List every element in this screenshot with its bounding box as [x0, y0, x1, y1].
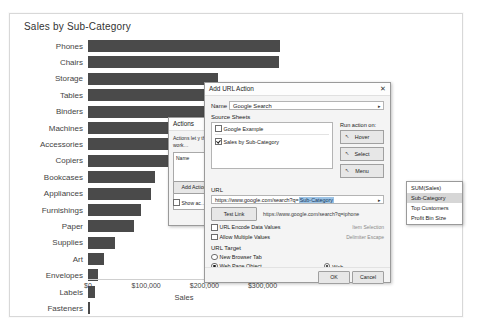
name-input[interactable]: Google Search ▸ — [229, 101, 384, 110]
test-link-button[interactable]: Test Link — [211, 207, 257, 221]
url-input-prefix: https://www.google.com/search?q= — [215, 197, 299, 203]
allow-multiple-hint: Delimiter Escape — [346, 234, 384, 240]
screenshot-root: Sales by Sub-Category PhonesChairsStorag… — [0, 0, 484, 334]
source-sheets-row: Google ExampleSales by Sub-Category Run … — [211, 122, 384, 181]
chart-row-label: Machines — [10, 124, 88, 133]
source-sheet-item[interactable]: Sales by Sub-Category — [215, 138, 329, 145]
dropdown-item[interactable]: Sub-Category — [407, 193, 462, 203]
dropdown-item[interactable]: Profit Bin Size — [407, 213, 462, 223]
chart-row-label: Copiers — [10, 156, 88, 165]
chart-bar[interactable] — [88, 40, 280, 52]
cursor-icon: ↖ — [345, 133, 349, 139]
checkbox-icon[interactable] — [211, 224, 218, 231]
url-encode-option[interactable]: URL Encode Data Values Item Selection — [211, 224, 384, 231]
chart-bar[interactable] — [88, 56, 279, 68]
show-actions-checkbox[interactable]: Show ac… — [173, 199, 206, 206]
add-url-action-dialog[interactable]: Add URL Action ✕ Name Google Search ▸ So… — [204, 82, 391, 283]
close-icon[interactable]: ✕ — [380, 83, 386, 95]
chart-row-label: Chairs — [10, 58, 88, 67]
radio-icon[interactable] — [211, 254, 218, 261]
chart-bar[interactable] — [88, 302, 90, 314]
url-dialog-body: Name Google Search ▸ Source Sheets Googl… — [205, 101, 390, 286]
chevron-right-icon[interactable]: ▸ — [378, 102, 381, 111]
source-sheet-item[interactable]: Google Example — [215, 125, 329, 135]
cursor-icon: ↖ — [345, 167, 349, 173]
chart-bar[interactable] — [88, 171, 155, 183]
chart-bar[interactable] — [88, 237, 115, 249]
dropdown-item[interactable]: Top Customers — [407, 203, 462, 213]
chart-bar-track — [88, 38, 310, 54]
chart-row-label: Supplies — [10, 238, 88, 247]
checkbox-icon[interactable] — [173, 199, 180, 206]
chart-bar[interactable] — [88, 89, 208, 101]
test-link-preview: https://www.google.com/search?q=iphone — [263, 211, 359, 217]
url-input[interactable]: https://www.google.com/search?q=Sub-Cate… — [211, 195, 384, 204]
chart-row-label: Furnishings — [10, 206, 88, 215]
chart-row-label: Art — [10, 255, 88, 264]
chart-row-label: Accessories — [10, 140, 88, 149]
run-action-button-label: Menu — [355, 168, 369, 174]
run-action-select-button[interactable]: ↖Select — [340, 147, 384, 161]
chart-bar[interactable] — [88, 73, 218, 85]
checkbox-icon[interactable] — [211, 234, 218, 241]
source-sheet-label: Google Example — [224, 126, 264, 132]
chart-row-label: Tables — [10, 91, 88, 100]
run-action-hover-button[interactable]: ↖Hover — [340, 130, 384, 144]
checkbox-icon[interactable] — [215, 138, 222, 145]
run-action-on-label: Run action on: — [340, 122, 384, 128]
chart-bar[interactable] — [88, 106, 206, 118]
chart-bar[interactable] — [88, 188, 151, 200]
source-sheet-label: Sales by Sub-Category — [224, 139, 279, 145]
field-dropdown-menu[interactable]: SUM(Sales)Sub-CategoryTop CustomersProfi… — [406, 181, 463, 225]
url-encode-label: URL Encode Data Values — [220, 224, 281, 230]
url-target-label: URL Target — [211, 245, 384, 251]
chart-row-label: Paper — [10, 222, 88, 231]
name-row: Name Google Search ▸ — [211, 101, 384, 110]
test-link-row: Test Link https://www.google.com/search?… — [211, 207, 384, 221]
url-target-option-label: New Browser Tab — [220, 254, 262, 260]
chart-row-label: Fasteners — [10, 304, 88, 313]
run-action-on-buttons: ↖Hover↖Select↖Menu — [340, 130, 384, 178]
chart-row-label: Phones — [10, 42, 88, 51]
x-axis-title: Sales — [175, 293, 194, 302]
chart-bar[interactable] — [88, 155, 175, 167]
dropdown-item[interactable]: SUM(Sales) — [407, 183, 462, 193]
chart-row[interactable]: Phones — [10, 38, 310, 54]
chart-bar[interactable] — [88, 253, 104, 265]
run-action-menu-button[interactable]: ↖Menu — [340, 164, 384, 178]
url-section-label: URL — [211, 187, 384, 193]
run-action-on-group: Run action on: ↖Hover↖Select↖Menu — [340, 122, 384, 181]
name-label: Name — [211, 103, 229, 109]
checkbox-icon[interactable] — [215, 125, 222, 132]
cancel-button[interactable]: Cancel — [352, 271, 384, 284]
url-dialog-titlebar: Add URL Action ✕ — [205, 83, 390, 96]
source-sheets-listbox[interactable]: Google ExampleSales by Sub-Category — [211, 122, 333, 169]
url-dialog-title: Add URL Action — [209, 85, 254, 92]
run-action-button-label: Select — [355, 151, 370, 157]
source-sheets-label: Source Sheets — [211, 114, 384, 120]
chart-row-label: Bookcases — [10, 173, 88, 182]
run-action-button-label: Hover — [355, 134, 369, 140]
chart-row[interactable]: Fasteners — [10, 300, 310, 316]
x-axis-tick-label: $100,000 — [132, 282, 161, 289]
chart-row[interactable]: Chairs — [10, 54, 310, 70]
url-target-option[interactable]: New Browser Tab — [211, 254, 384, 261]
chart-row-label: Storage — [10, 74, 88, 83]
url-section: URL https://www.google.com/search?q=Sub-… — [211, 187, 384, 240]
chart-bar[interactable] — [88, 204, 141, 216]
name-input-value: Google Search — [233, 103, 272, 109]
chart-row-label: Binders — [10, 107, 88, 116]
chart-bar-track — [88, 300, 310, 316]
chart-bar[interactable] — [88, 220, 134, 232]
chart-row-label: Envelopes — [10, 271, 88, 280]
chart-row-label: Appliances — [10, 189, 88, 198]
chart-bar-track — [88, 54, 310, 70]
url-field-chevron-icon[interactable]: ▸ — [378, 196, 381, 204]
page-title: Sales by Sub-Category — [24, 21, 131, 32]
allow-multiple-label: Allow Multiple Values — [220, 234, 271, 240]
ok-button[interactable]: OK — [318, 271, 350, 284]
url-input-field-token: Sub-Category — [299, 197, 334, 203]
x-axis-tick-label: $0 — [84, 282, 92, 289]
url-encode-hint: Item Selection — [352, 224, 384, 230]
allow-multiple-option[interactable]: Allow Multiple Values Delimiter Escape — [211, 234, 384, 241]
